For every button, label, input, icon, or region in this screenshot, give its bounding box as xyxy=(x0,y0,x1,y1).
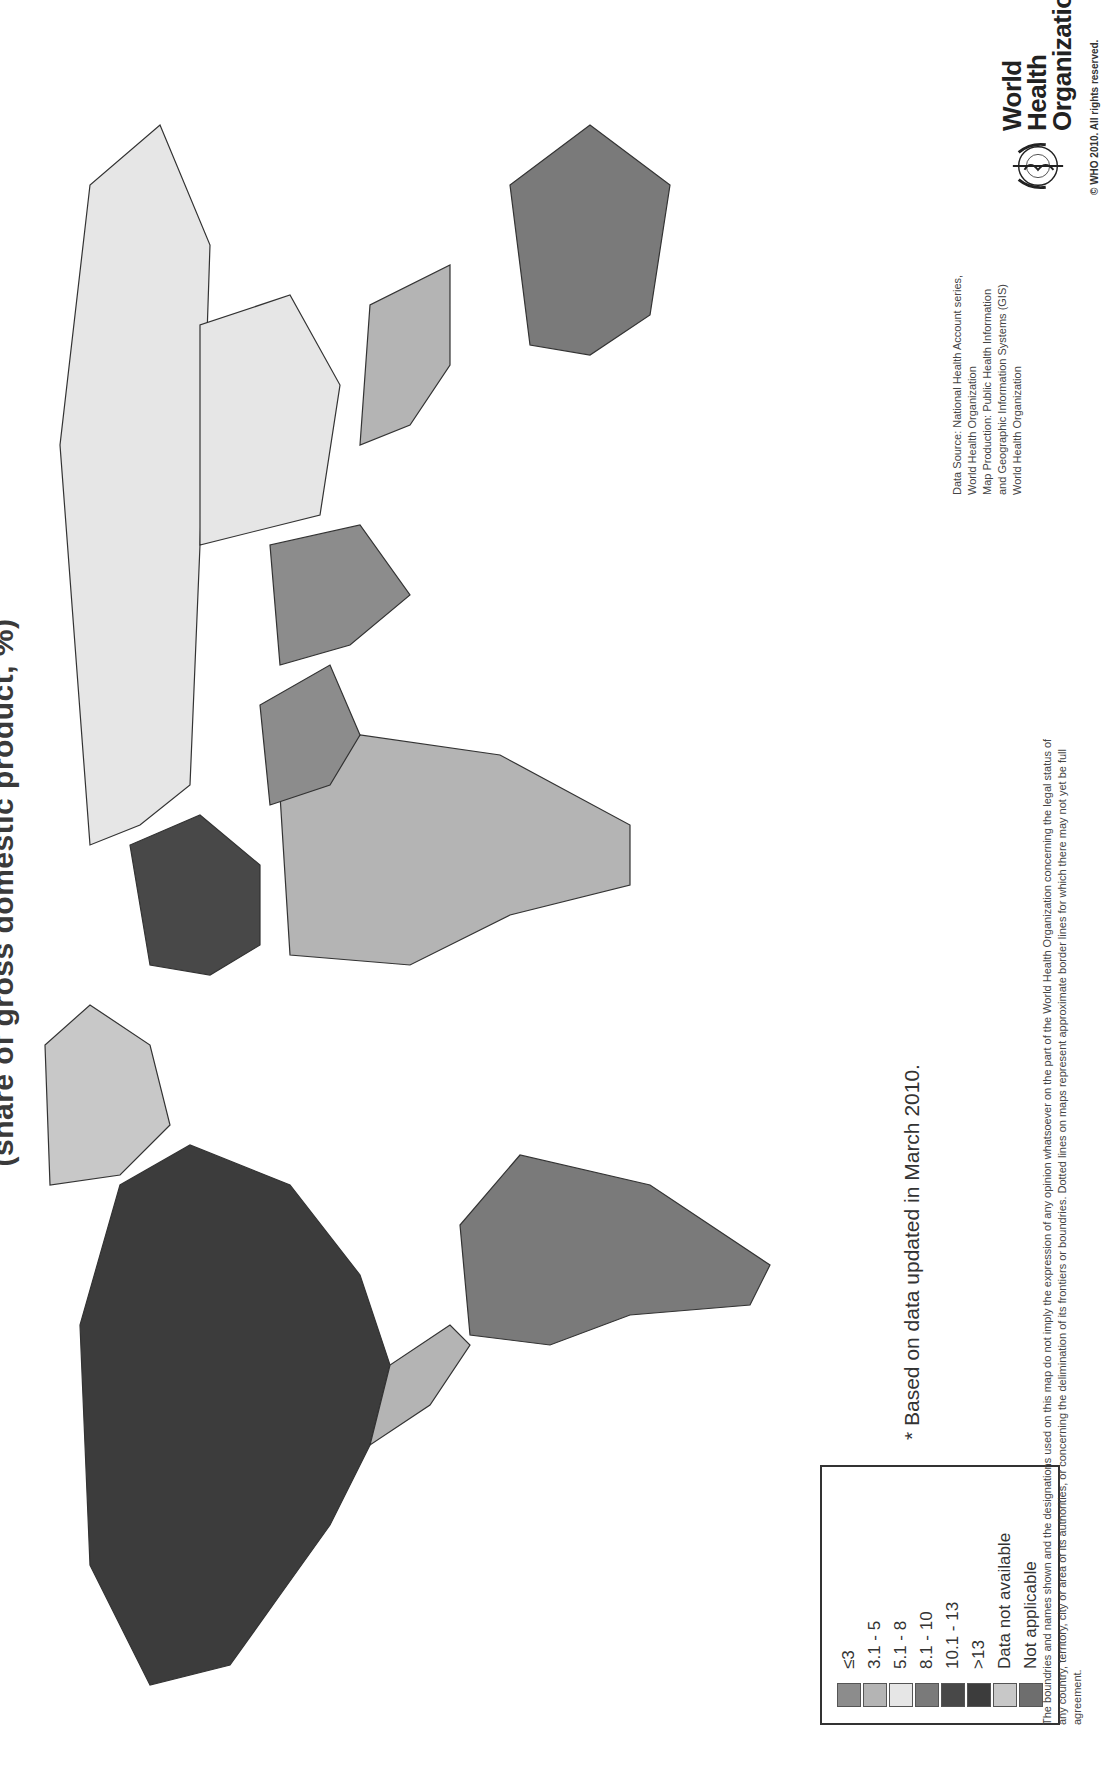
map-legend: ≤3 3.1 - 5 5.1 - 8 8.1 - 10 10.1 - 13 >1… xyxy=(820,1465,1060,1725)
region-greenland xyxy=(45,1005,170,1185)
region-russia xyxy=(60,125,210,845)
source-line: and Geographic Information Systems (GIS) xyxy=(995,225,1010,495)
legend-row: ≤3 xyxy=(836,1483,862,1707)
legend-row: >13 xyxy=(966,1483,992,1707)
legend-swatch xyxy=(915,1683,939,1707)
legend-label: 10.1 - 13 xyxy=(943,1602,963,1669)
legend-label: Not applicable xyxy=(1021,1561,1041,1669)
data-update-footnote: * Based on data updated in March 2010. xyxy=(900,1064,924,1440)
legend-label: 5.1 - 8 xyxy=(891,1621,911,1669)
legend-row: 10.1 - 13 xyxy=(940,1483,966,1707)
boundary-disclaimer: The boundries and names shown and the de… xyxy=(1040,725,1085,1725)
world-map xyxy=(30,45,810,1745)
region-east-asia xyxy=(200,295,340,545)
legend-swatch xyxy=(889,1683,913,1707)
who-emblem-icon xyxy=(1009,137,1067,195)
region-north-america xyxy=(80,1145,390,1685)
region-central-america xyxy=(370,1325,470,1445)
publisher-block: World Health Organization © WHO 2010. Al… xyxy=(1000,5,1100,195)
map-title: (share of gross domestic product, %) xyxy=(0,0,20,1785)
source-line: World Health Organization xyxy=(1010,225,1025,495)
legend-label: ≤3 xyxy=(839,1650,859,1669)
legend-swatch xyxy=(837,1683,861,1707)
region-south-asia xyxy=(270,525,410,665)
region-australia xyxy=(510,125,670,355)
legend-swatch xyxy=(967,1683,991,1707)
legend-row: 8.1 - 10 xyxy=(914,1483,940,1707)
data-source-credit: Data Source: National Health Account ser… xyxy=(950,225,1025,495)
map-sheet: (share of gross domestic product, %) ≤3 … xyxy=(0,0,1115,1785)
copyright-notice: © WHO 2010. All rights reserved. xyxy=(1089,5,1100,195)
legend-swatch xyxy=(993,1683,1017,1707)
source-line: Data Source: National Health Account ser… xyxy=(950,225,965,495)
legend-row: Data not available xyxy=(992,1483,1018,1707)
legend-row: 3.1 - 5 xyxy=(862,1483,888,1707)
region-south-america xyxy=(460,1155,770,1345)
legend-label: 3.1 - 5 xyxy=(865,1621,885,1669)
source-line: World Health Organization xyxy=(965,225,980,495)
publisher-name: World Health Organization xyxy=(1000,0,1075,131)
legend-label: 8.1 - 10 xyxy=(917,1611,937,1669)
legend-label: >13 xyxy=(969,1640,989,1669)
region-europe xyxy=(130,815,260,975)
source-line: Map Production: Public Health Informatio… xyxy=(980,225,995,495)
legend-swatch xyxy=(941,1683,965,1707)
legend-swatch xyxy=(863,1683,887,1707)
region-southeast-asia xyxy=(360,265,450,445)
legend-label: Data not available xyxy=(995,1533,1015,1669)
legend-row: 5.1 - 8 xyxy=(888,1483,914,1707)
